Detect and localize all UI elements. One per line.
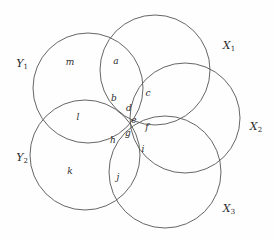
venn-diagram-canvas: Y1X1X2Y2X3 macbldefghikj (0, 0, 274, 240)
region-label-c: c (145, 89, 150, 98)
set-label-x3: X3 (223, 203, 235, 214)
set-label-y1: Y1 (16, 58, 28, 69)
region-label-d: d (126, 104, 132, 113)
set-circle-x2 (130, 63, 240, 173)
region-label-g: g (125, 129, 131, 138)
set-circle-x1 (100, 15, 210, 125)
set-label-x2: X2 (250, 121, 262, 132)
region-label-l: l (77, 113, 80, 122)
region-label-a: a (113, 57, 118, 66)
region-label-m: m (66, 58, 75, 67)
region-label-i: i (142, 145, 145, 154)
region-label-e: e (131, 116, 136, 125)
region-label-h: h (110, 136, 116, 145)
set-label-y2: Y2 (16, 152, 28, 163)
region-label-b: b (111, 94, 117, 103)
region-label-f: f (145, 123, 148, 132)
set-label-x1: X1 (223, 40, 235, 51)
set-circle-y1 (33, 33, 143, 143)
region-label-j: j (117, 173, 120, 182)
region-label-k: k (67, 167, 72, 176)
set-circle-y2 (30, 100, 140, 210)
